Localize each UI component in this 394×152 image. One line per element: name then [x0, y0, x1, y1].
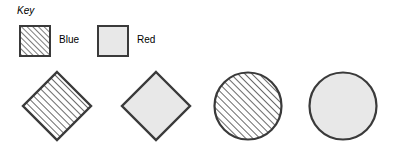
shape-diamond-gray: [120, 70, 192, 142]
key-label-red: Red: [137, 34, 155, 46]
diamond-hatched-icon: [21, 70, 93, 142]
figure-canvas: Key Blue Red: [0, 0, 394, 152]
key-swatch-red-solid: [97, 25, 129, 57]
key-title: Key: [17, 5, 34, 17]
shapes-row: [0, 60, 394, 152]
circle-hatched-icon: [212, 70, 284, 142]
key-legend: Key Blue Red: [0, 0, 394, 60]
key-label-blue: Blue: [59, 34, 79, 46]
shape-circle-hatched: [212, 70, 284, 142]
diamond-gray-icon: [120, 70, 192, 142]
circle-gray-icon: [307, 70, 379, 142]
key-swatch-blue-hatched: [19, 25, 51, 57]
hatch-swatch-icon: [21, 27, 49, 55]
shape-diamond-hatched: [21, 70, 93, 142]
shape-circle-gray: [307, 70, 379, 142]
